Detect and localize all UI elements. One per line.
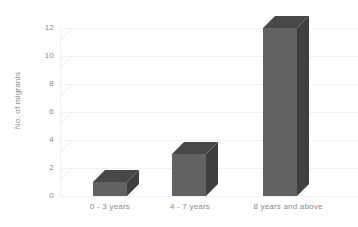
y-tick-0: 0 bbox=[30, 191, 54, 201]
y-tick-label-12: 12 bbox=[30, 23, 54, 32]
bar-front-face bbox=[172, 154, 206, 196]
x-tick-label-0: 0 - 3 years bbox=[70, 202, 150, 211]
gridline-riser-2 bbox=[60, 168, 72, 181]
y-tick-12: 12 bbox=[30, 23, 54, 33]
y-axis-title: No. of migrants bbox=[13, 56, 22, 146]
y-tick-label-0: 0 bbox=[30, 191, 54, 200]
y-tick-10: 10 bbox=[30, 51, 54, 61]
bar-8-years-and-above[interactable] bbox=[263, 28, 297, 196]
gridline-4 bbox=[72, 140, 358, 141]
y-tick-label-8: 8 bbox=[30, 79, 54, 88]
gridline-8 bbox=[72, 84, 358, 85]
y-tick-label-2: 2 bbox=[30, 163, 54, 172]
x-tick-label-2: 8 years and above bbox=[228, 202, 348, 211]
gridline-riser-10 bbox=[60, 56, 72, 69]
y-tick-4: 4 bbox=[30, 135, 54, 145]
gridline-riser-8 bbox=[60, 84, 72, 97]
bar-front-face bbox=[263, 28, 297, 196]
bar-0-3-years[interactable] bbox=[93, 182, 127, 196]
gridline-10 bbox=[72, 56, 358, 57]
plot-area: 12 10 8 6 4 2 0 bbox=[0, 0, 358, 227]
y-tick-2: 2 bbox=[30, 163, 54, 173]
bar-chart: 12 10 8 6 4 2 0 bbox=[0, 0, 358, 227]
y-axis-line bbox=[60, 28, 61, 196]
bar-side-face bbox=[297, 16, 309, 196]
bar-front-face bbox=[93, 182, 127, 196]
y-tick-label-6: 6 bbox=[30, 107, 54, 116]
y-tick-label-4: 4 bbox=[30, 135, 54, 144]
y-tick-8: 8 bbox=[30, 79, 54, 89]
gridline-6 bbox=[72, 112, 358, 113]
gridline-riser-12 bbox=[60, 28, 72, 41]
y-tick-6: 6 bbox=[30, 107, 54, 117]
y-tick-label-10: 10 bbox=[30, 51, 54, 60]
x-axis-line bbox=[60, 196, 358, 197]
gridline-12 bbox=[72, 28, 358, 29]
gridline-riser-6 bbox=[60, 112, 72, 125]
gridline-riser-4 bbox=[60, 140, 72, 153]
x-tick-label-1: 4 - 7 years bbox=[150, 202, 230, 211]
bar-4-7-years[interactable] bbox=[172, 154, 206, 196]
